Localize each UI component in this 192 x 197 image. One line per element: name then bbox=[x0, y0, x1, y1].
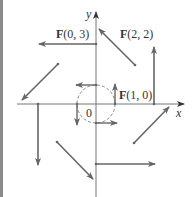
vector-at-2-neg2 bbox=[134, 107, 169, 143]
label-f-1-0: F(1, 0) bbox=[119, 88, 152, 102]
x-axis-label: x bbox=[175, 106, 182, 120]
label-f-2-2: F(2, 2) bbox=[120, 27, 153, 41]
origin-label: 0 bbox=[86, 106, 92, 120]
y-axis-label: y bbox=[85, 7, 92, 21]
vector-field-plot: F(0, 3) F(2, 2) F(1, 0) x y 0 bbox=[0, 0, 192, 197]
vector-at-neg2-neg2 bbox=[57, 142, 93, 179]
vector-at-neg2-2 bbox=[22, 64, 58, 100]
vector-field-figure: F(0, 3) F(2, 2) F(1, 0) x y 0 bbox=[0, 0, 192, 197]
label-f-0-3: F(0, 3) bbox=[56, 27, 89, 41]
